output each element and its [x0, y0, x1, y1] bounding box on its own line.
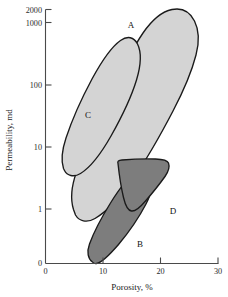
- y-tick-label-1: 1: [38, 205, 42, 214]
- y-tick-label-2000: 2000: [26, 6, 42, 15]
- region-d-shape: [118, 159, 169, 211]
- region-label-c: C: [85, 110, 91, 120]
- region-label-d: D: [170, 206, 177, 216]
- y-tick-label-100: 100: [30, 81, 42, 90]
- permeability-porosity-scatter-chart: 2000 1000 100 10 1 0 0 10 20 30 Porosity…: [0, 0, 228, 297]
- y-axis-title: Permeability, md: [4, 109, 14, 171]
- x-tick-label-10: 10: [99, 267, 107, 276]
- x-tick-label-20: 20: [156, 267, 164, 276]
- y-tick-label-10: 10: [34, 143, 42, 152]
- x-tick-label-30: 30: [214, 267, 222, 276]
- chart-figure: 2000 1000 100 10 1 0 0 10 20 30 Porosity…: [0, 0, 228, 297]
- region-label-b: B: [137, 239, 143, 249]
- y-tick-label-1000: 1000: [26, 19, 42, 28]
- y-tick-label-0: 0: [38, 259, 42, 268]
- x-axis-title: Porosity, %: [111, 282, 153, 292]
- region-label-a: A: [128, 20, 135, 30]
- x-tick-label-0: 0: [43, 267, 47, 276]
